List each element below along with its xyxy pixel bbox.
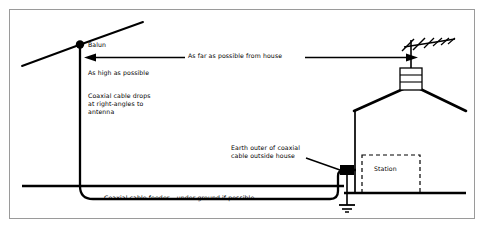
chimney-stack: [400, 68, 422, 90]
coax-connector-block: [340, 165, 354, 175]
label-as-far-as-possible: As far as possible from house: [188, 52, 282, 60]
dashed-room-outline: [362, 155, 420, 193]
label-coax-drops-at-right-angles: Coaxial cable drops at right-angles to a…: [88, 92, 151, 117]
label-coax-feeder-underground: Coaxial cable feeder – under ground if p…: [104, 194, 254, 202]
label-earth-outer-of-coax: Earth outer of coaxial cable outside hou…: [231, 144, 300, 160]
label-balun: Balun: [88, 41, 106, 49]
arrow-head-left: [84, 54, 96, 62]
yagi-tv-antenna: [402, 38, 455, 68]
antenna-installation-diagram: Balun As far as possible from house As h…: [0, 0, 484, 228]
earth-ground-symbol: [339, 205, 355, 212]
dipole-left-leg: [22, 45, 79, 66]
label-station: Station: [374, 165, 397, 173]
label-as-high-as-possible: As high as possible: [88, 69, 149, 77]
callout-leader-line: [306, 158, 340, 170]
house-gable-roof: [354, 85, 466, 193]
arrow-head-right: [406, 54, 418, 62]
chimney-body: [400, 68, 422, 90]
